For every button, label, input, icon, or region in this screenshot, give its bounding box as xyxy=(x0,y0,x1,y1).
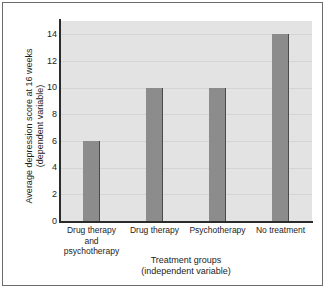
x-axis-tick-label-line: No treatment xyxy=(256,225,305,235)
x-axis-tick-label-line: Drug therapy and xyxy=(67,225,116,246)
bar[interactable] xyxy=(83,141,100,221)
x-axis-tick-label: Drug therapy xyxy=(123,225,186,236)
bar[interactable] xyxy=(209,88,226,221)
x-axis-tick-label: Drug therapy andpsychotherapy xyxy=(60,225,123,257)
x-axis-line xyxy=(59,221,313,223)
x-axis-tick-label-line: Psychotherapy xyxy=(189,225,245,235)
y-axis-line xyxy=(59,19,61,223)
y-axis-title-line2: (dependent variable) xyxy=(35,85,45,168)
y-axis-title-line1: Average depression score at 16 weeks xyxy=(24,49,34,204)
x-axis-tick-label-line: Drug therapy xyxy=(130,225,179,235)
bar-chart: 14121086420 Drug therapy andpsychotherap… xyxy=(3,3,322,285)
x-axis-title-line1: Treatment groups xyxy=(151,255,222,265)
x-axis-title: Treatment groups (independent variable) xyxy=(60,255,312,277)
figure-frame: 14121086420 Drug therapy andpsychotherap… xyxy=(2,2,323,286)
x-axis-tick-label: Psychotherapy xyxy=(186,225,249,236)
bar-series xyxy=(60,21,312,221)
y-axis-title: Average depression score at 16 weeks (de… xyxy=(24,18,46,234)
bar[interactable] xyxy=(146,88,163,221)
x-axis-tick-labels: Drug therapy andpsychotherapyDrug therap… xyxy=(60,225,312,251)
x-axis-title-line2: (independent variable) xyxy=(141,266,231,276)
y-axis-title-wrapper: Average depression score at 16 weeks (de… xyxy=(15,3,55,243)
x-axis-tick-label: No treatment xyxy=(249,225,312,236)
plot-area xyxy=(60,21,312,221)
bar[interactable] xyxy=(272,34,289,221)
